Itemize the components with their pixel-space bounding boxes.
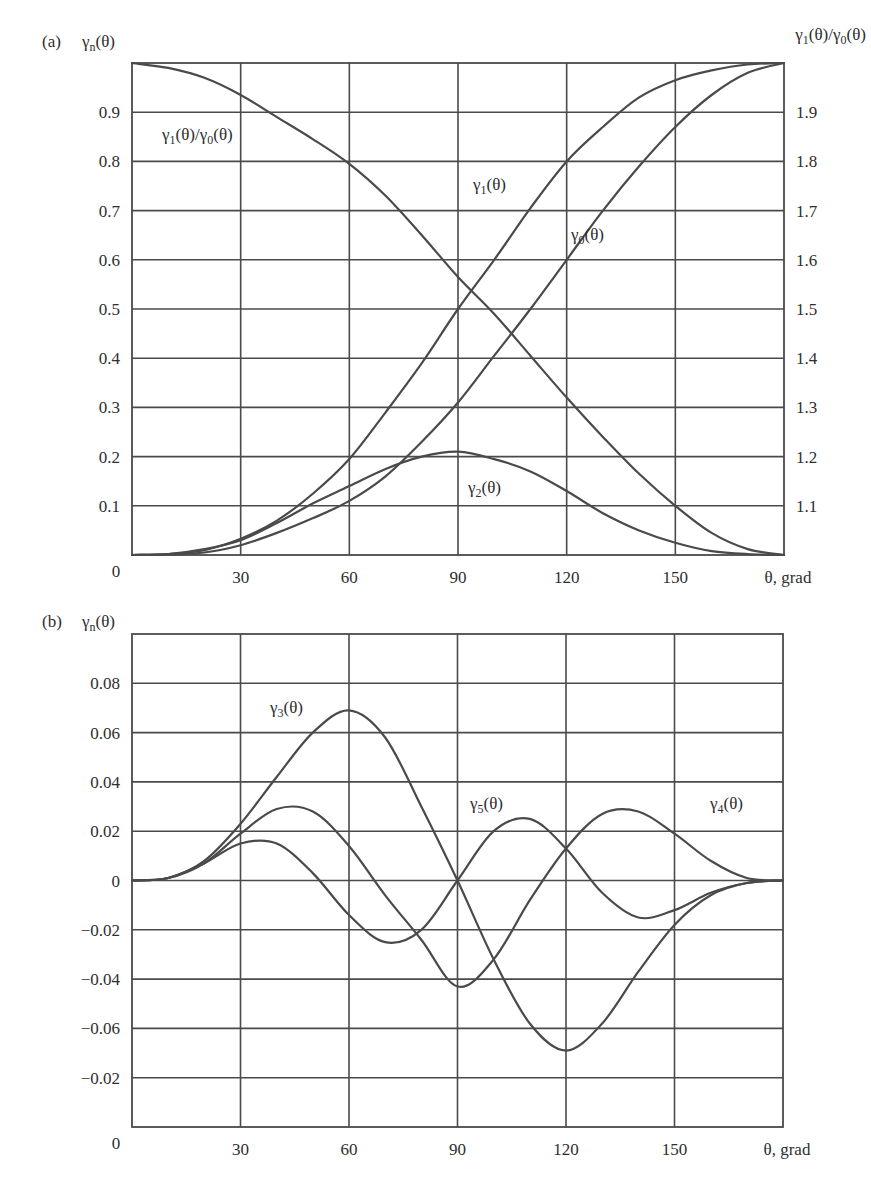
x-tick-label: 150 (663, 568, 689, 587)
x-axis-label: θ, grad (765, 568, 812, 587)
y-right-tick-label: 1.2 (796, 448, 817, 467)
y-tick-label: 0.1 (99, 497, 120, 516)
chart-panel-a: 0.10.20.30.40.50.60.70.80.91.11.21.31.41… (42, 25, 866, 587)
x-tick-label: 90 (449, 1140, 466, 1159)
y-tick-label: 0.8 (99, 152, 120, 171)
y-tick-label: −0.02 (81, 1069, 120, 1088)
series-label: γ3(θ) (269, 698, 303, 720)
panel-label: (a) (42, 32, 61, 51)
x-tick-label: 150 (662, 1140, 688, 1159)
figure: 0.10.20.30.40.50.60.70.80.91.11.21.31.41… (0, 0, 871, 1197)
chart-panel-b: 0.080.060.040.020−0.02−0.04−0.06−0.02306… (42, 612, 811, 1159)
y-right-tick-label: 1.9 (796, 103, 817, 122)
y-tick-label: 0.06 (90, 724, 120, 743)
y-tick-label: 0.02 (90, 822, 120, 841)
series-label: γ1(θ) (472, 175, 506, 197)
y-right-tick-label: 1.4 (796, 349, 818, 368)
y-tick-label: −0.04 (81, 970, 121, 989)
y-right-tick-label: 1.6 (796, 251, 817, 270)
panel-label: (b) (42, 612, 62, 631)
origin-label: 0 (112, 562, 121, 581)
x-tick-label: 60 (341, 1140, 358, 1159)
x-tick-label: 30 (232, 568, 249, 587)
y-right-axis-label: γ1(θ)/γ0(θ) (794, 25, 866, 47)
y-right-tick-label: 1.8 (796, 152, 817, 171)
x-tick-label: 60 (341, 568, 358, 587)
y-right-tick-label: 1.1 (796, 497, 817, 516)
series-label: γ2(θ) (467, 478, 501, 500)
y-tick-label: 0.9 (99, 103, 120, 122)
y-tick-label: −0.06 (81, 1019, 120, 1038)
y-tick-label: 0.6 (99, 251, 120, 270)
series-label: γ4(θ) (709, 794, 743, 816)
series-label: γ1(θ)/γ0(θ) (161, 125, 233, 147)
origin-label: 0 (112, 1134, 121, 1153)
y-tick-label: 0.7 (99, 202, 121, 221)
series-label: γ5(θ) (469, 794, 503, 816)
series-label: γ0(θ) (570, 225, 604, 247)
y-tick-label: 0.2 (99, 448, 120, 467)
y-right-tick-label: 1.7 (796, 202, 818, 221)
figure-canvas: 0.10.20.30.40.50.60.70.80.91.11.21.31.41… (0, 0, 871, 1197)
x-tick-label: 30 (232, 1140, 249, 1159)
y-tick-label: 0.4 (99, 349, 121, 368)
x-axis-label: θ, grad (764, 1140, 811, 1159)
y-tick-label: 0.3 (99, 398, 120, 417)
y-tick-label: 0.04 (90, 773, 120, 792)
y-right-tick-label: 1.3 (796, 398, 817, 417)
y-tick-label: 0 (112, 872, 121, 891)
x-tick-label: 120 (553, 1140, 579, 1159)
x-tick-label: 90 (450, 568, 467, 587)
y-axis-label: γn(θ) (81, 612, 115, 634)
x-tick-label: 120 (554, 568, 580, 587)
y-tick-label: 0.5 (99, 300, 120, 319)
y-tick-label: 0.08 (90, 674, 120, 693)
y-axis-label: γn(θ) (81, 32, 115, 54)
y-tick-label: −0.02 (81, 921, 120, 940)
y-right-tick-label: 1.5 (796, 300, 817, 319)
